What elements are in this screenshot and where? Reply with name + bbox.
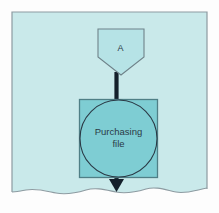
connector-a-label: A: [117, 43, 123, 53]
scanned-page: A Purchasing file: [0, 0, 219, 213]
purchasing-file-label-line1: Purchasing: [95, 126, 143, 137]
flowchart-canvas: A Purchasing file: [0, 0, 219, 213]
purchasing-file-label-line2: file: [112, 138, 124, 149]
